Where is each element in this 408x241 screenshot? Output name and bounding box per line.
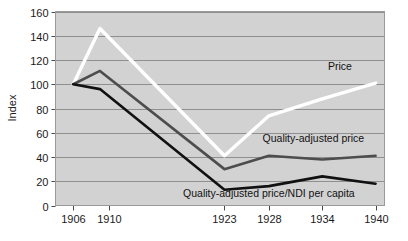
y-tick-label: 40 <box>36 152 48 164</box>
x-tick-label: 1928 <box>257 213 281 225</box>
y-tick-label: 0 <box>42 201 48 213</box>
y-tick-label: 60 <box>36 128 48 140</box>
series-annotation-label: Quality-adjusted price/NDI per capita <box>183 187 355 199</box>
y-tick-label: 80 <box>36 104 48 116</box>
y-axis-title: Index <box>6 94 18 121</box>
plot-area-background <box>56 12 385 206</box>
x-tick-label: 1910 <box>97 213 121 225</box>
x-tick-label: 1940 <box>364 213 388 225</box>
y-tick-label: 120 <box>30 55 48 67</box>
y-tick-label: 100 <box>30 79 48 91</box>
line-chart: 020406080100120140160 190619101923192819… <box>0 0 408 241</box>
series-annotation-label: Quality-adjusted price <box>263 132 365 144</box>
y-tick-label: 140 <box>30 31 48 43</box>
x-tick-label: 1934 <box>310 213 334 225</box>
y-tick-label: 160 <box>30 7 48 19</box>
x-tick-label: 1906 <box>61 213 85 225</box>
x-tick-label: 1923 <box>212 213 236 225</box>
chart-figure: 020406080100120140160 190619101923192819… <box>0 0 408 241</box>
series-annotation-label: Price <box>328 60 352 72</box>
y-tick-label: 20 <box>36 176 48 188</box>
